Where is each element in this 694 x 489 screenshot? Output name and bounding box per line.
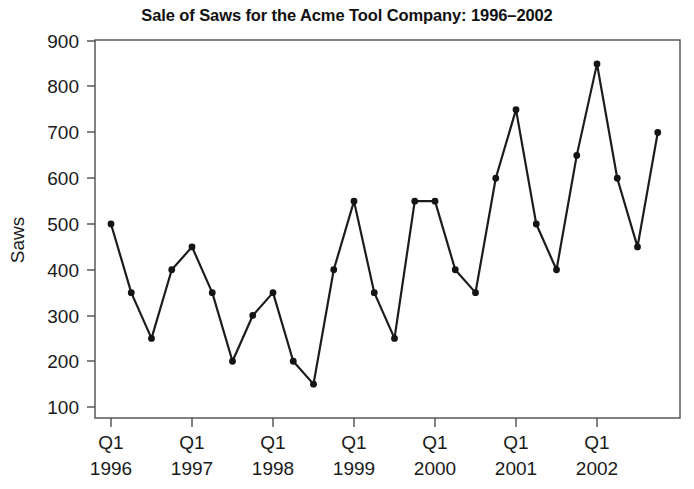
series-data-point [270, 289, 277, 296]
y-tick-label: 900 [47, 31, 79, 52]
series-data-point [330, 266, 337, 273]
series-data-point [189, 243, 196, 250]
x-tick-label-quarter: Q1 [503, 432, 528, 453]
series-line-saws [111, 64, 658, 384]
x-tick-label-year: 1997 [171, 458, 213, 479]
y-axis-ticks [87, 41, 95, 407]
x-tick-label-quarter: Q1 [584, 432, 609, 453]
y-tick-label: 700 [47, 122, 79, 143]
series-data-point [290, 358, 297, 365]
series-data-point [148, 335, 155, 342]
series-data-point [229, 358, 236, 365]
y-axis-tick-labels: 900 800 700 600 500 400 300 200 100 [47, 31, 79, 418]
y-tick-label: 600 [47, 168, 79, 189]
series-data-point [310, 381, 317, 388]
series-data-point [108, 221, 115, 228]
series-data-point [411, 198, 418, 205]
x-tick-label-year: 1998 [252, 458, 294, 479]
x-tick-label-quarter: Q1 [422, 432, 447, 453]
series-data-point [513, 106, 520, 113]
x-tick-label-year: 2001 [495, 458, 537, 479]
x-tick-label-quarter: Q1 [341, 432, 366, 453]
y-tick-label: 200 [47, 351, 79, 372]
series-data-point [168, 266, 175, 273]
series-data-point [249, 312, 256, 319]
series-data-point [209, 289, 216, 296]
series-data-point [573, 152, 580, 159]
series-data-point [472, 289, 479, 296]
series-markers-saws [108, 60, 662, 387]
x-tick-label-quarter: Q1 [179, 432, 204, 453]
series-data-point [614, 175, 621, 182]
line-chart-plot: 900 800 700 600 500 400 300 200 100 Saws… [0, 0, 694, 489]
x-tick-label-year: 2000 [414, 458, 456, 479]
x-tick-label-year: 1996 [90, 458, 132, 479]
series-data-point [128, 289, 135, 296]
series-data-point [351, 198, 358, 205]
series-data-point [391, 335, 398, 342]
y-tick-label: 300 [47, 306, 79, 327]
x-tick-label-year: 2002 [576, 458, 618, 479]
x-axis-tick-labels: Q1 1996 Q1 1997 Q1 1998 Q1 1999 Q1 2000 … [90, 432, 618, 479]
x-tick-label-quarter: Q1 [98, 432, 123, 453]
series-data-point [492, 175, 499, 182]
series-data-point [594, 60, 601, 67]
y-tick-label: 100 [47, 397, 79, 418]
x-tick-label-quarter: Q1 [260, 432, 285, 453]
chart-container: Sale of Saws for the Acme Tool Company: … [0, 0, 694, 489]
y-tick-label: 800 [47, 76, 79, 97]
x-tick-label-year: 1999 [333, 458, 375, 479]
y-tick-label: 500 [47, 214, 79, 235]
series-data-point [634, 243, 641, 250]
series-data-point [533, 221, 540, 228]
y-axis-title: Saws [7, 217, 28, 263]
series-data-point [654, 129, 661, 136]
plot-frame [95, 40, 680, 418]
series-data-point [553, 266, 560, 273]
x-axis-ticks [111, 418, 597, 427]
y-tick-label: 400 [47, 260, 79, 281]
series-data-point [432, 198, 439, 205]
series-data-point [452, 266, 459, 273]
series-data-point [371, 289, 378, 296]
